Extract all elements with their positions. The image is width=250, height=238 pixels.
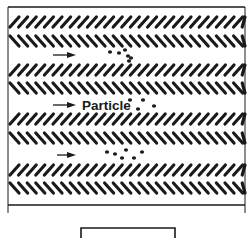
hatch-row [10,65,245,75]
fiber-mark [130,114,139,124]
fiber-mark [62,83,71,93]
fiber-mark [96,83,105,93]
fiber-mark [225,133,234,143]
fiber-mark [70,36,79,46]
fiber-mark [208,83,217,93]
fiber-mark [87,65,96,75]
fiber-mark [139,114,148,124]
fiber-mark [53,183,62,193]
fiber-mark [44,133,53,143]
fiber-mark [79,17,88,27]
fiber-mark [87,133,96,143]
fiber-mark [156,36,165,46]
fiber-mark [191,17,200,27]
particle-dot [132,156,136,159]
fiber-mark [165,114,174,124]
fiber-mark [44,183,53,193]
fiber-mark [216,133,225,143]
flow-arrow-icon [53,52,76,58]
fiber-mark [139,165,148,175]
fiber-mark [70,183,79,193]
fiber-mark [62,114,71,124]
fiber-mark [79,133,88,143]
fiber-mark [216,83,225,93]
fiber-mark [53,114,62,124]
particle-dot [127,59,131,62]
fiber-mark [148,183,157,193]
fiber-mark [44,83,53,93]
fiber-mark [87,165,96,175]
hatch-row [10,36,245,46]
fiber-mark [36,17,45,27]
fiber-mark [96,114,105,124]
fiber-mark [113,183,122,193]
fiber-mark [62,165,71,175]
hatch-row [10,114,245,124]
fiber-mark [173,165,182,175]
fiber-mark [225,17,234,27]
channel-1 [53,48,133,62]
fiber-mark [199,83,208,93]
fiber-mark [225,65,234,75]
fiber-mark [216,36,225,46]
fiber-mark [182,133,191,143]
fiber-mark [70,165,79,175]
fiber-mark [216,114,225,124]
fiber-mark [53,133,62,143]
fiber-mark [19,17,28,27]
fiber-mark [208,17,217,27]
fiber-mark [148,165,157,175]
particle-dot [129,56,133,59]
fiber-mark [10,83,19,93]
fiber-mark [216,165,225,175]
fiber-mark [208,114,217,124]
fiber-mark [122,183,131,193]
fiber-mark [182,65,191,75]
fiber-mark [70,17,79,27]
fiber-mark [87,83,96,93]
fiber-mark [113,17,122,27]
particle-dot [124,148,128,151]
fiber-mark [27,65,36,75]
fiber-mark [19,165,28,175]
bottom-box-outline [81,228,175,238]
particle-dot [123,48,127,51]
fiber-mark [44,36,53,46]
fiber-mark [53,36,62,46]
fiber-mark [191,65,200,75]
particle-dot [152,104,156,107]
fiber-mark [216,183,225,193]
fiber-mark [182,36,191,46]
fiber-mark [113,165,122,175]
fiber-mark [87,17,96,27]
flow-arrow-icon [53,102,76,108]
fiber-mark [156,17,165,27]
fiber-mark [225,83,234,93]
hatch-row [10,133,245,143]
fiber-mark [113,36,122,46]
fiber-mark [53,65,62,75]
fiber-mark [62,65,71,75]
fiber-mark [122,65,131,75]
fiber-mark [105,36,114,46]
fiber-mark [27,36,36,46]
fiber-mark [139,83,148,93]
fiber-mark [87,183,96,193]
fiber-mark [79,83,88,93]
particle-dot [136,107,140,110]
fiber-mark [191,83,200,93]
fiber-mark [165,36,174,46]
fiber-mark [36,36,45,46]
fiber-mark [27,114,36,124]
fiber-mark [10,133,19,143]
fiber-mark [173,133,182,143]
fiber-mark [105,165,114,175]
fiber-mark [148,36,157,46]
fiber-mark [113,133,122,143]
fiber-mark [70,114,79,124]
fiber-mark [62,36,71,46]
fiber-mark [44,165,53,175]
fiber-mark [36,183,45,193]
fiber-mark [199,165,208,175]
fiber-mark [208,65,217,75]
